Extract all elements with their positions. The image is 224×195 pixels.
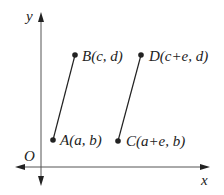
point-a-label: A(a, b) [59, 132, 102, 149]
origin-label: O [24, 148, 35, 164]
point-a [50, 137, 56, 143]
point-c-label: C(a+e, b) [126, 133, 185, 150]
point-d [138, 52, 144, 58]
point-c [115, 138, 121, 144]
x-axis [15, 164, 210, 170]
segment-ab [53, 55, 75, 140]
point-b-label: B(c, d) [82, 48, 123, 65]
x-axis-label: x [200, 172, 208, 188]
segment-cd [118, 55, 141, 141]
point-b [72, 52, 78, 58]
y-axis [38, 12, 44, 186]
y-axis-label: y [24, 8, 33, 24]
coordinate-diagram: y x O A(a, b) B(c, d) C(a+e, b) D(c+e, d… [0, 0, 224, 195]
point-d-label: D(c+e, d) [148, 48, 208, 65]
